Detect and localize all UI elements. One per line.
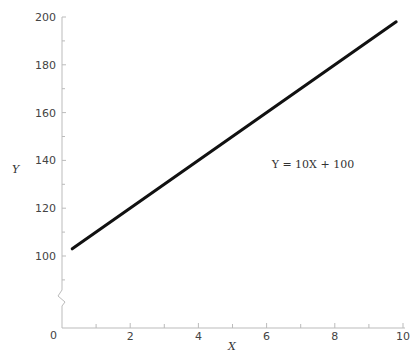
series-line [72, 22, 396, 249]
y-tick-label: 200 [35, 11, 56, 24]
y-tick-label: 180 [35, 59, 56, 72]
y-tick-label: 160 [35, 107, 56, 120]
x-tick-label: 10 [396, 330, 410, 343]
line-chart: 246810100120140160180200 X Y 0 Y = 10X +… [0, 0, 415, 359]
x-tick-label: 8 [331, 330, 338, 343]
y-tick-label: 140 [35, 154, 56, 167]
y-tick-label: 100 [35, 250, 56, 263]
y-axis-label: Y [12, 163, 21, 176]
equation-annotation: Y = 10X + 100 [271, 158, 355, 171]
x-tick-label: 6 [263, 330, 270, 343]
x-tick-label: 4 [195, 330, 202, 343]
y-axis-break [58, 290, 65, 306]
y-tick-label: 120 [35, 202, 56, 215]
origin-label: 0 [50, 329, 57, 342]
x-axis-label: X [227, 340, 237, 353]
x-tick-label: 2 [127, 330, 134, 343]
